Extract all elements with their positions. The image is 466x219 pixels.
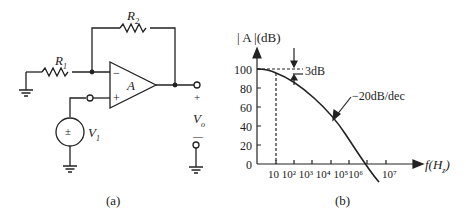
y-tick-60: 60 [240,102,252,114]
vo-minus-sign: — [193,132,203,142]
gain-curve [257,69,379,182]
y-tick-0: 0 [246,159,252,171]
figure-canvas [0,0,466,219]
annotation-3db: 3dB [305,65,325,77]
x-tick-labels: 10 10² 10³ 10⁴ 10⁵10⁶ [268,169,363,180]
source-polarity-icon: ± [65,126,71,137]
ground-left-icon [19,72,33,96]
caption-a: (a) [106,194,120,207]
bode-plot [253,48,423,182]
vo-plus-sign: + [194,92,200,103]
r1-label: R1 [55,54,67,71]
y-tick-20: 20 [240,140,252,152]
x-tick-last: 10⁷ [382,169,397,180]
y-tick-40: 40 [240,121,252,133]
vo-label: Vo [193,112,205,129]
x-axis-label: f(Hz) [425,158,450,175]
noninverting-input-sign: + [113,92,120,104]
caption-b: (b) [335,194,350,207]
v1-label: V1 [88,126,100,143]
y-tick-100: 100 [234,64,252,76]
annotation-slope: −20dB/dec [352,90,405,102]
amp-gain-label: A [127,79,135,92]
r2-label: R2 [127,9,139,26]
y-axis-label: | A |(dB) [237,31,281,44]
inverting-input-sign: − [113,67,120,79]
y-tick-80: 80 [240,83,252,95]
